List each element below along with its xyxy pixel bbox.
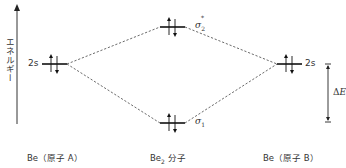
energy-axis xyxy=(14,4,20,124)
electron-down-icon xyxy=(173,115,177,133)
sigma2-star-label: σ2* xyxy=(195,19,204,32)
atom-b-caption: Be（原子 B） xyxy=(263,151,319,163)
energy-variable: E xyxy=(340,87,346,97)
axis-arrowhead-icon xyxy=(14,4,20,11)
sigma2-star-superscript: * xyxy=(201,14,204,21)
delta-e-arrow xyxy=(325,64,331,122)
electron-up-icon xyxy=(284,54,288,72)
molecule-caption: Be2 分子 xyxy=(150,151,186,165)
electron-down-icon xyxy=(173,19,177,37)
atom-b-orbital-label: 2s xyxy=(305,59,315,68)
level-sigma1 xyxy=(160,113,185,133)
molecule-caption-main: Be xyxy=(150,153,161,163)
arrowhead-down-icon xyxy=(326,117,330,121)
electron-up-icon xyxy=(167,113,171,131)
level-sigma2-star xyxy=(160,17,185,37)
electron-up-icon xyxy=(49,54,53,72)
electron-down-icon xyxy=(290,56,294,74)
level-atom-b-2s xyxy=(277,54,302,74)
correlation-lines xyxy=(67,27,277,123)
atom-a-caption: Be（原子 A） xyxy=(27,151,83,163)
electron-up-icon xyxy=(167,17,171,35)
sigma1-subscript: 1 xyxy=(201,121,205,128)
sigma1-label: σ1 xyxy=(195,117,205,128)
sigma2-star-subscript: 2 xyxy=(201,25,205,32)
electron-down-icon xyxy=(55,56,59,74)
level-atom-a-2s xyxy=(42,54,67,74)
molecule-caption-suffix: 分子 xyxy=(165,153,186,163)
atom-a-orbital-label: 2s xyxy=(28,59,38,68)
delta-e-label: ΔE xyxy=(333,88,346,97)
energy-axis-label: エネルギー xyxy=(3,38,13,83)
arrowhead-up-icon xyxy=(326,65,330,69)
